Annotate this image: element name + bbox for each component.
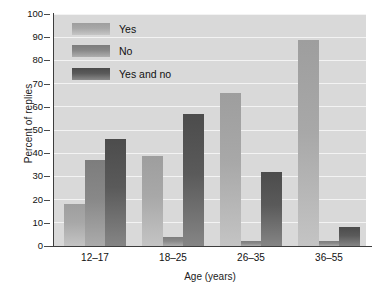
legend-swatch bbox=[72, 23, 110, 35]
y-axis-tick-mark bbox=[44, 176, 50, 177]
y-axis-tick-mark bbox=[44, 14, 50, 15]
bar bbox=[220, 93, 241, 246]
y-axis-tick-label: 60 bbox=[32, 102, 43, 112]
legend-item: No bbox=[72, 42, 222, 61]
bar bbox=[183, 114, 204, 246]
y-axis-tick-mark bbox=[44, 223, 50, 224]
y-axis-tick-mark bbox=[44, 37, 50, 38]
y-axis-tick-label: 80 bbox=[32, 55, 43, 65]
bar bbox=[298, 40, 319, 246]
y-axis-tick-label: 50 bbox=[32, 125, 43, 135]
y-axis-tick-label: 10 bbox=[32, 218, 43, 228]
bar bbox=[85, 160, 106, 246]
y-axis-tick-label: 90 bbox=[32, 32, 43, 42]
legend-item: Yes and no bbox=[72, 64, 222, 83]
x-axis-tick-label: 18–25 bbox=[159, 252, 187, 263]
y-axis-tick-label: 30 bbox=[32, 171, 43, 181]
y-axis-tick-labels: 0102030405060708090100 bbox=[0, 0, 54, 291]
bar bbox=[339, 227, 360, 246]
x-axis-title: Age (years) bbox=[54, 271, 366, 282]
x-axis-tick-label: 12–17 bbox=[81, 252, 109, 263]
y-axis-tick-mark bbox=[44, 84, 50, 85]
y-axis-tick-label: 70 bbox=[32, 79, 43, 89]
legend-label: Yes bbox=[119, 23, 136, 35]
x-axis-tick-label: 26–35 bbox=[237, 252, 265, 263]
y-axis-tick-label: 20 bbox=[32, 195, 43, 205]
y-axis-tick-label: 0 bbox=[38, 241, 43, 251]
y-axis-tick-mark bbox=[44, 107, 50, 108]
y-axis-tick-label: 100 bbox=[27, 9, 43, 19]
bar bbox=[142, 156, 163, 246]
legend-label: Yes and no bbox=[119, 68, 171, 80]
bar bbox=[261, 172, 282, 246]
y-axis-tick-mark bbox=[44, 153, 50, 154]
bar bbox=[64, 204, 85, 246]
bar bbox=[241, 241, 262, 246]
x-axis-line bbox=[50, 246, 372, 247]
y-axis-tick-mark bbox=[44, 200, 50, 201]
x-axis-tick-label: 36–55 bbox=[315, 252, 343, 263]
legend-swatch bbox=[72, 45, 110, 57]
y-axis-tick-label: 40 bbox=[32, 148, 43, 158]
legend: YesNoYes and no bbox=[72, 19, 222, 87]
legend-item: Yes bbox=[72, 19, 222, 38]
y-axis-tick-mark bbox=[44, 60, 50, 61]
bar-chart-figure: Percent of replies 010203040506070809010… bbox=[0, 0, 379, 291]
bar bbox=[319, 241, 340, 246]
y-axis-tick-mark bbox=[44, 130, 50, 131]
bar bbox=[163, 237, 184, 246]
legend-label: No bbox=[119, 45, 132, 57]
legend-swatch bbox=[72, 68, 110, 80]
x-axis-tick-labels: 12–1718–2526–3536–55 bbox=[54, 252, 366, 268]
bar bbox=[105, 139, 126, 246]
